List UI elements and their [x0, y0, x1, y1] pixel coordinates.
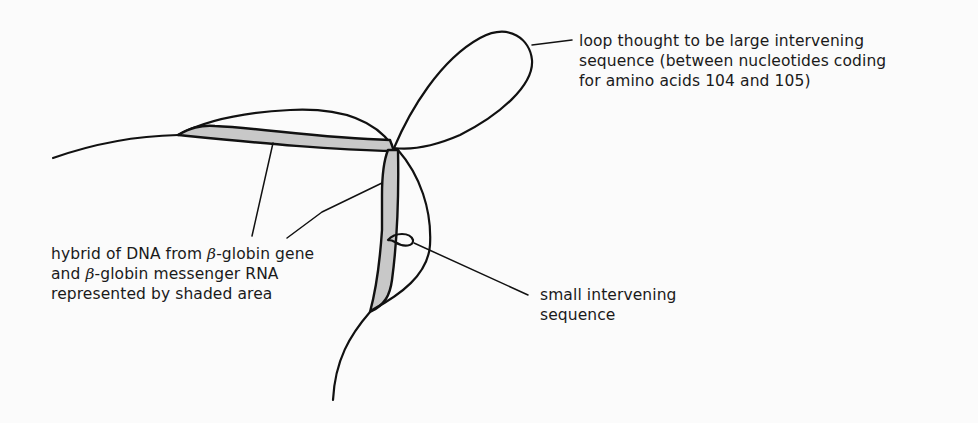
- leader-line-hybrid-vertical: [287, 183, 382, 238]
- dna-strand-left: [53, 135, 178, 158]
- label-large-loop: loop thought to be large intervening seq…: [579, 31, 886, 91]
- label-small-loop: small intervening sequence: [540, 285, 677, 325]
- large-intervening-loop: [394, 32, 532, 149]
- leader-line-large-loop: [532, 40, 572, 45]
- label-large-loop-line-2: sequence (between nucleotides coding: [579, 51, 886, 71]
- hybrid-vertical: [370, 150, 398, 312]
- dna-strand-lower: [333, 312, 370, 400]
- label-small-loop-line-2: sequence: [540, 305, 677, 325]
- beta-symbol: β: [86, 265, 95, 283]
- leader-line-hybrid-horizontal: [252, 143, 273, 236]
- label-large-loop-line-3: for amino acids 104 and 105): [579, 71, 886, 91]
- label-hybrid-line-1: hybrid of DNA from β-globin gene: [51, 244, 314, 264]
- hybrid-horizontal: [178, 126, 394, 151]
- label-hybrid-line-3: represented by shaded area: [51, 284, 314, 304]
- label-small-loop-line-1: small intervening: [540, 285, 677, 305]
- beta-symbol: β: [207, 245, 216, 263]
- label-hybrid-line-2: and β-globin messenger RNA: [51, 264, 314, 284]
- leader-line-small-loop: [414, 243, 528, 295]
- label-large-loop-line-1: loop thought to be large intervening: [579, 31, 886, 51]
- label-hybrid: hybrid of DNA from β-globin gene and β-g…: [51, 244, 314, 304]
